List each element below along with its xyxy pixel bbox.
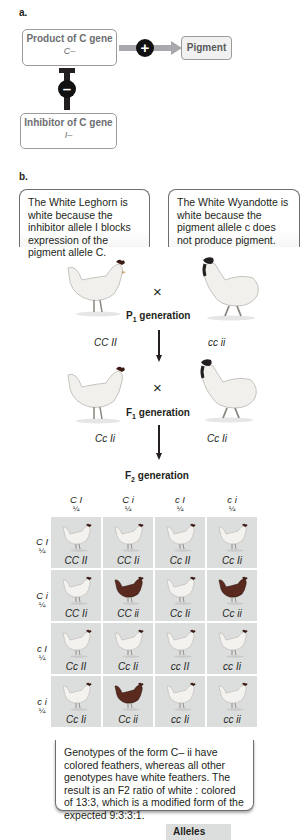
- row-header-ci: c i ¼: [34, 697, 50, 715]
- punnett-cell: cc Ii: [155, 676, 205, 727]
- f2-generation-label: F2 generation: [125, 470, 189, 483]
- callout-white-wyandotte: The White Wyandotte is white because the…: [168, 189, 300, 247]
- f1-rooster-icon: [193, 358, 261, 424]
- cell-genotype: Cc II: [155, 555, 205, 566]
- punnett-cell: Cc Ii: [155, 570, 205, 621]
- p1-generation-label: P1 generation: [126, 310, 190, 323]
- pigment-box: Pigment: [181, 36, 232, 60]
- punnett-square: CC IICC IiCc IICc IiCC IiCC iiCc IiCc ii…: [51, 517, 257, 727]
- cell-genotype: CC Ii: [51, 608, 101, 619]
- product-box-title: Product of C gene: [23, 33, 116, 45]
- plus-circle-icon: +: [136, 39, 154, 57]
- white-hen-icon: [61, 522, 93, 552]
- column-header-cI: c I ¼: [172, 495, 188, 513]
- punnett-cell: Cc Ii: [51, 676, 101, 727]
- white-hen-icon: [165, 628, 197, 658]
- white-hen-icon: [217, 628, 249, 658]
- panel-a-label: a.: [19, 7, 27, 18]
- minus-circle-icon: –: [58, 80, 76, 98]
- cell-genotype: CC ii: [103, 608, 153, 619]
- f1-right-genotype: Cc Ii: [207, 433, 227, 444]
- cell-genotype: Cc Ii: [155, 608, 205, 619]
- white-hen-icon: [61, 575, 93, 605]
- punnett-cell: Cc II: [155, 517, 205, 568]
- p1-to-f1-arrow-shaft: [158, 330, 160, 356]
- column-header-ci: c i ¼: [224, 495, 240, 513]
- p1-left-genotype: CC II: [94, 337, 117, 348]
- p1-cross-symbol: ×: [153, 283, 162, 300]
- cell-genotype: Cc Ii: [207, 555, 257, 566]
- punnett-cell: Cc Ii: [103, 623, 153, 674]
- f1-cross-symbol: ×: [153, 379, 162, 396]
- white-hen-icon: [61, 681, 93, 711]
- down-arrow-icon: [156, 453, 162, 460]
- white-leghorn-hen-icon: [62, 256, 132, 318]
- cell-genotype: CC Ii: [103, 555, 153, 566]
- white-wyandotte-rooster-icon: [195, 256, 263, 322]
- f1-generation-label: F1 generation: [126, 407, 190, 420]
- white-hen-icon: [113, 522, 145, 552]
- cell-genotype: cc II: [155, 661, 205, 672]
- cell-genotype: Cc Ii: [51, 714, 101, 725]
- white-hen-icon: [61, 628, 93, 658]
- f1-hen-icon: [62, 363, 132, 425]
- f1-left-genotype: Cc Ii: [95, 433, 115, 444]
- punnett-cell: cc II: [155, 623, 205, 674]
- white-hen-icon: [165, 575, 197, 605]
- colored-hen-icon: [113, 575, 145, 605]
- colored-hen-icon: [217, 575, 249, 605]
- punnett-cell: CC Ii: [103, 517, 153, 568]
- summary-callout: Genotypes of the form C– ii have colored…: [55, 740, 254, 811]
- down-arrow-icon: [156, 355, 162, 362]
- white-hen-icon: [165, 681, 197, 711]
- row-header-CI: C I ¼: [34, 537, 50, 555]
- cell-genotype: cc Ii: [207, 661, 257, 672]
- callout-white-leghorn: The White Leghorn is white because the i…: [19, 189, 150, 247]
- f1-to-f2-arrow-shaft: [158, 425, 160, 454]
- inhibitor-box-title: Inhibitor of C gene: [21, 117, 116, 129]
- punnett-cell: Cc ii: [207, 570, 257, 621]
- white-hen-icon: [217, 522, 249, 552]
- colored-hen-icon: [113, 681, 145, 711]
- punnett-cell: Cc II: [51, 623, 101, 674]
- cell-genotype: CC II: [51, 555, 101, 566]
- cell-genotype: cc Ii: [155, 714, 205, 725]
- inhibitor-of-c-gene-box: Inhibitor of C gene I–: [20, 113, 117, 149]
- punnett-cell: CC ii: [103, 570, 153, 621]
- punnett-cell: Cc ii: [103, 676, 153, 727]
- white-hen-icon: [165, 522, 197, 552]
- cell-genotype: Cc II: [51, 661, 101, 672]
- white-hen-icon: [113, 628, 145, 658]
- punnett-cell: cc ii: [207, 676, 257, 727]
- cell-genotype: Cc ii: [207, 608, 257, 619]
- product-box-genotype: C–: [23, 45, 116, 57]
- alleles-legend-title: Alleles: [166, 824, 231, 840]
- cell-genotype: Cc Ii: [103, 661, 153, 672]
- inhibitor-box-genotype: I–: [21, 129, 116, 141]
- cell-genotype: cc ii: [207, 714, 257, 725]
- white-hen-icon: [217, 681, 249, 711]
- punnett-cell: cc Ii: [207, 623, 257, 674]
- punnett-cell: CC Ii: [51, 570, 101, 621]
- punnett-cell: CC II: [51, 517, 101, 568]
- column-header-Ci: C i ¼: [120, 495, 136, 513]
- p1-right-genotype: cc ii: [208, 337, 225, 348]
- row-header-cI: c I ¼: [34, 644, 50, 662]
- row-header-Ci: C i ¼: [34, 591, 50, 609]
- column-header-CI: C I ¼: [68, 495, 84, 513]
- panel-b-label: b.: [19, 171, 28, 182]
- cell-genotype: Cc ii: [103, 714, 153, 725]
- product-of-c-gene-box: Product of C gene C–: [22, 29, 117, 66]
- punnett-cell: Cc Ii: [207, 517, 257, 568]
